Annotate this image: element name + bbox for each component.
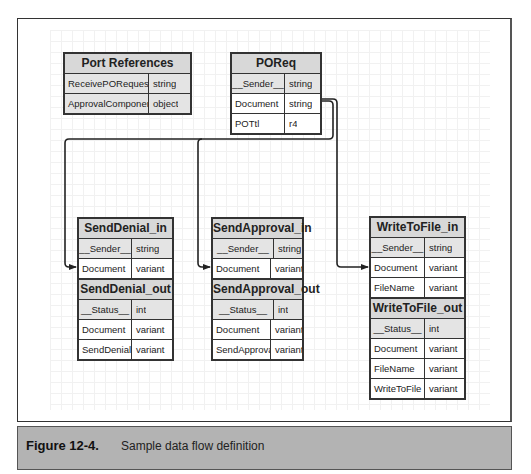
field-name: SendApproval: [213, 340, 271, 359]
table-row[interactable]: __Status__ int: [371, 319, 464, 339]
field-type: string: [274, 239, 301, 258]
field-name: Document: [232, 94, 285, 113]
table-row[interactable]: Document variant: [79, 320, 172, 340]
field-name: __Status__: [213, 300, 274, 319]
table-row[interactable]: ReceivePORequest string: [65, 74, 190, 94]
table-row[interactable]: FileName variant: [371, 278, 464, 298]
table-row[interactable]: __Status__ int: [213, 300, 302, 320]
field-name: Document: [213, 259, 271, 278]
field-name: ApprovalComponent: [65, 94, 149, 113]
field-type: variant: [132, 320, 165, 339]
field-type: variant: [271, 340, 302, 359]
figure-caption-text: Sample data flow definition: [121, 439, 264, 453]
table-row[interactable]: __Status__ int: [79, 300, 172, 320]
table-title: WriteToFile_out: [371, 298, 464, 319]
table-row[interactable]: FileName variant: [371, 359, 464, 379]
table-row[interactable]: SendDenial variant: [79, 340, 172, 359]
table-row[interactable]: SendApproval variant: [213, 340, 302, 359]
table-title: Port References: [65, 54, 190, 74]
figure-number: Figure 12-4.: [26, 438, 99, 453]
sendapproval-table[interactable]: SendApproval_in __Sender__ string Docume…: [211, 217, 304, 361]
senddenial-table[interactable]: SendDenial_in __Sender__ string Document…: [77, 217, 174, 361]
table-title: SendDenial_out: [79, 279, 172, 300]
table-row[interactable]: __Sender__ string: [213, 239, 302, 259]
table-row[interactable]: POTtl r4: [232, 114, 320, 133]
field-name: FileName: [371, 278, 425, 297]
field-type: variant: [425, 258, 458, 277]
field-type: string: [285, 94, 312, 113]
field-type: variant: [132, 259, 165, 278]
field-type: object: [149, 94, 178, 113]
field-name: POTtl: [232, 114, 285, 133]
writetofile-table[interactable]: WriteToFile_in __Sender__ string Documen…: [369, 216, 466, 400]
field-name: __Sender__: [371, 238, 425, 257]
field-type: variant: [425, 379, 458, 398]
field-name: SendDenial: [79, 340, 132, 359]
field-type: string: [285, 74, 312, 93]
table-title: WriteToFile_in: [371, 218, 464, 238]
field-name: __Sender__: [213, 239, 274, 258]
wire-sendapproval[interactable]: [198, 139, 210, 267]
field-name: Document: [79, 320, 132, 339]
field-name: ReceivePORequest: [65, 74, 149, 93]
field-type: int: [132, 300, 146, 319]
table-row[interactable]: Document variant: [371, 258, 464, 278]
field-type: variant: [271, 320, 302, 339]
table-row[interactable]: Document variant: [371, 339, 464, 359]
field-type: variant: [425, 278, 458, 297]
field-type: variant: [425, 339, 458, 358]
field-name: __Sender__: [232, 74, 285, 93]
field-type: string: [132, 239, 159, 258]
field-name: Document: [213, 320, 271, 339]
field-type: int: [425, 319, 439, 338]
wire-writetofile[interactable]: [322, 99, 368, 267]
field-type: string: [425, 238, 452, 257]
field-name: WriteToFile: [371, 379, 425, 398]
field-type: variant: [132, 340, 165, 359]
poreq-table[interactable]: POReq __Sender__ string Document string …: [230, 52, 322, 135]
figure-caption: Figure 12-4. Sample data flow definition: [17, 426, 512, 470]
table-row[interactable]: Document variant: [79, 259, 172, 279]
field-name: __Status__: [79, 300, 132, 319]
table-row[interactable]: __Sender__ string: [232, 74, 320, 94]
table-title: SendApproval_out: [213, 279, 302, 300]
field-name: __Sender__: [79, 239, 132, 258]
table-title: SendApproval_in: [213, 219, 302, 239]
table-row[interactable]: __Sender__ string: [371, 238, 464, 258]
table-row[interactable]: __Sender__ string: [79, 239, 172, 259]
field-name: Document: [371, 258, 425, 277]
table-title: POReq: [232, 54, 320, 74]
table-row[interactable]: WriteToFile variant: [371, 379, 464, 398]
table-row[interactable]: Document string: [232, 94, 320, 114]
field-name: Document: [79, 259, 132, 278]
table-row[interactable]: ApprovalComponent object: [65, 94, 190, 113]
field-type: r4: [285, 114, 297, 133]
field-type: variant: [425, 359, 458, 378]
field-type: variant: [271, 259, 302, 278]
port-references-table[interactable]: Port References ReceivePORequest string …: [63, 52, 192, 115]
field-name: Document: [371, 339, 425, 358]
table-title: SendDenial_in: [79, 219, 172, 239]
field-type: string: [149, 74, 176, 93]
field-name: __Status__: [371, 319, 425, 338]
table-row[interactable]: Document variant: [213, 259, 302, 279]
field-name: FileName: [371, 359, 425, 378]
table-row[interactable]: Document variant: [213, 320, 302, 340]
field-type: int: [274, 300, 288, 319]
